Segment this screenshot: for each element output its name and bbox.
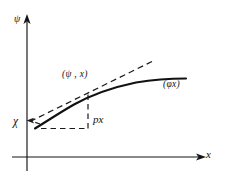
x-axis-label: x xyxy=(206,149,211,160)
tangent-line xyxy=(30,62,152,122)
diagram-canvas xyxy=(0,0,229,181)
curve-label: (φx) xyxy=(163,80,180,90)
figure-container: ψ x χ px (ψ , x) (φx) xyxy=(0,0,229,181)
slope-leg-label: px xyxy=(93,114,103,125)
y-intercept-label: χ xyxy=(13,116,18,128)
tangent-point-label: (ψ , x) xyxy=(62,70,88,80)
y-axis-label: ψ xyxy=(14,14,20,24)
